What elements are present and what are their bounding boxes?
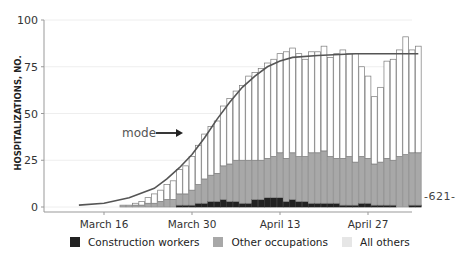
bar-segment [384, 158, 390, 205]
bar-segment [353, 54, 359, 162]
y-tick-label: 100 [17, 14, 38, 27]
bar-segment [283, 52, 289, 159]
x-tick-label: April 13 [260, 218, 301, 230]
bar-segment [265, 63, 271, 158]
bar-segment [271, 198, 277, 207]
bar-segment [189, 190, 195, 205]
bar-segment [315, 203, 321, 207]
bar-segment [202, 179, 208, 203]
bar-segment [145, 198, 151, 204]
bar-segment [227, 201, 233, 207]
bar-segment [365, 203, 371, 207]
bar-segment [378, 162, 384, 205]
bar-segment [246, 203, 252, 207]
legend-item-other-occupations: Other occupations [213, 236, 327, 248]
bar-segment [309, 153, 315, 203]
y-axis-label: HOSPITALIZATIONS, NO. [13, 55, 23, 170]
bar-segment [151, 194, 157, 203]
bar-segment [221, 200, 227, 207]
bar-segment [258, 69, 264, 161]
bar-segment [384, 61, 390, 158]
y-tick-label: 0 [31, 201, 38, 214]
bar-segment [302, 59, 308, 156]
bar-segment [321, 203, 327, 207]
bar-segment [321, 46, 327, 151]
mode-annotation: mode [122, 126, 183, 140]
bar-segment [139, 201, 145, 205]
bar-segment [177, 194, 183, 205]
bar-segment [246, 160, 252, 203]
bar-segment [227, 99, 233, 164]
arrowhead-icon [176, 129, 183, 137]
bar-segment [252, 200, 258, 207]
bar-segment [195, 185, 201, 204]
bar-segment [290, 153, 296, 200]
x-tick-label: March 16 [80, 218, 129, 230]
bar-segment [177, 170, 183, 194]
bar-segment [371, 164, 377, 205]
bar-segment [371, 97, 377, 164]
bar-segment [340, 158, 346, 205]
bar-segment [296, 157, 302, 202]
bar-segment [327, 57, 333, 156]
bar-segment [133, 203, 139, 205]
y-tick-label: 75 [24, 61, 38, 74]
bar-segment [409, 50, 415, 153]
bar-segment [346, 54, 352, 157]
legend-swatch-other [213, 237, 223, 247]
bar-segment [151, 203, 157, 207]
bar-segment [315, 153, 321, 203]
bar-segment [208, 175, 214, 201]
bar-segment [258, 200, 264, 207]
bar-segment [164, 200, 170, 207]
bar-segment [327, 203, 333, 207]
bar-segment [233, 91, 239, 160]
bar-segment [302, 201, 308, 207]
bar-segment [409, 153, 415, 205]
chart-plot-area: 0255075100March 16March 30April 13April … [0, 0, 468, 232]
bar-segment [120, 205, 126, 207]
bar-segment [390, 160, 396, 205]
bar-segment [265, 198, 271, 207]
bar-segment [309, 52, 315, 153]
bar-segment [378, 87, 384, 162]
bar-segment [340, 50, 346, 158]
bar-segment [239, 203, 245, 207]
bar-segment [415, 46, 421, 153]
bar-segment [208, 201, 214, 207]
bar-segment [252, 160, 258, 199]
bar-segment [296, 201, 302, 207]
y-tick-label: 50 [24, 108, 38, 121]
legend-label: Construction workers [88, 236, 199, 248]
bar-segment [158, 201, 164, 207]
bar-segment [334, 158, 340, 203]
bar-segment [334, 203, 340, 207]
legend-swatch-construction [70, 237, 80, 247]
bar-segment [283, 201, 289, 207]
bar-segment [258, 160, 264, 199]
bar-segment [321, 151, 327, 203]
bar-segment [277, 198, 283, 207]
bar-segment [183, 194, 189, 205]
bar-segment [145, 203, 151, 207]
bar-segment [334, 54, 340, 159]
hospitalization-chart: 0255075100March 16March 30April 13April … [0, 0, 468, 263]
bar-segment [195, 145, 201, 184]
bar-segment [214, 201, 220, 207]
bar-segment [397, 157, 403, 207]
bar-segment [302, 157, 308, 202]
bar-segment [359, 203, 365, 207]
stacked-bars [120, 37, 421, 207]
bar-segment [277, 153, 283, 198]
bar-segment [221, 166, 227, 200]
bar-segment [239, 85, 245, 160]
bar-segment [195, 203, 201, 207]
bar-segment [126, 205, 132, 207]
bar-segment [214, 173, 220, 201]
bar-segment [346, 157, 352, 206]
bar-segment [290, 48, 296, 153]
bar-segment [365, 158, 371, 203]
bar-segment [397, 50, 403, 157]
bar-segment [315, 52, 321, 153]
y-tick-label: 25 [24, 154, 38, 167]
